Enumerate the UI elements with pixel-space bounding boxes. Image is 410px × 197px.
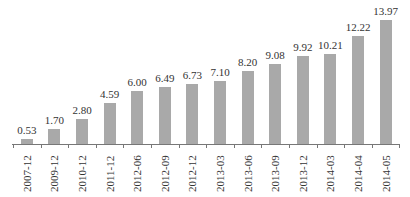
x-tick <box>261 144 262 148</box>
x-tick <box>234 144 235 148</box>
bar <box>269 64 281 144</box>
bar <box>131 91 143 144</box>
x-tick-label: 2011-12 <box>104 156 116 192</box>
bar <box>48 129 60 144</box>
x-tick <box>289 144 290 148</box>
bar <box>104 103 116 144</box>
x-tick <box>317 144 318 148</box>
x-tick <box>344 144 345 148</box>
x-tick <box>151 144 152 148</box>
bar <box>380 20 392 144</box>
x-tick-label: 2013-12 <box>297 155 309 192</box>
x-tick-label: 2014-04 <box>352 155 364 192</box>
x-tick <box>13 144 14 148</box>
x-tick-label: 2012-12 <box>186 155 198 192</box>
bar <box>242 71 254 144</box>
x-tick <box>399 144 400 148</box>
bar <box>21 139 33 144</box>
x-tick-label: 2012-09 <box>159 155 171 192</box>
bar-chart: 0.532007-121.702009-122.802010-124.59201… <box>0 0 410 197</box>
x-tick-label: 2013-09 <box>269 155 281 192</box>
x-tick-label: 2013-03 <box>214 155 226 192</box>
x-tick <box>41 144 42 148</box>
x-tick-label: 2010-12 <box>76 155 88 192</box>
x-tick-label: 2014-03 <box>324 155 336 192</box>
bar <box>324 54 336 144</box>
value-label: 4.59 <box>90 88 130 100</box>
x-tick <box>96 144 97 148</box>
x-tick <box>179 144 180 148</box>
x-tick-label: 2007-12 <box>21 155 33 192</box>
value-label: 2.80 <box>62 104 102 116</box>
value-label: 13.97 <box>366 5 406 17</box>
bar <box>297 56 309 144</box>
x-tick <box>123 144 124 148</box>
x-tick-label: 2012-06 <box>131 155 143 192</box>
value-label: 0.53 <box>7 124 47 136</box>
x-tick <box>68 144 69 148</box>
x-tick-label: 2009-12 <box>48 155 60 192</box>
x-tick-label: 2013-06 <box>242 155 254 192</box>
bar <box>352 36 364 144</box>
x-tick <box>372 144 373 148</box>
bar <box>186 84 198 144</box>
value-label: 10.21 <box>310 39 350 51</box>
bar <box>76 119 88 144</box>
bar <box>214 81 226 144</box>
x-tick-label: 2014-05 <box>380 155 392 192</box>
x-tick <box>206 144 207 148</box>
value-label: 12.22 <box>338 21 378 33</box>
bar <box>159 87 171 144</box>
